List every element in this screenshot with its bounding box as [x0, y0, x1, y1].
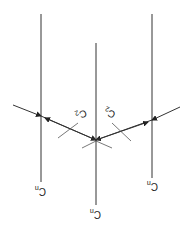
diagonal-right-outer: [152, 107, 180, 120]
center-cross-left: [82, 141, 96, 148]
svg-text:Cn: Cn: [90, 208, 101, 220]
svg-text:Cn: Cn: [147, 180, 158, 192]
svg-text:C2: C2: [74, 107, 89, 122]
label-c2-right: C2: [102, 105, 117, 120]
label-cn-left: Cn: [35, 185, 46, 197]
center-cross-right: [96, 141, 112, 148]
diagonal-right-back: [96, 122, 148, 140]
label-cn-center: Cn: [90, 208, 101, 220]
diagonal-left-outer: [13, 105, 41, 116]
label-c2-left: C2: [74, 107, 89, 122]
c2-axis-right: [112, 123, 131, 141]
label-cn-right: Cn: [147, 180, 158, 192]
svg-text:C2: C2: [102, 105, 117, 120]
symmetry-diagram: Cn Cn Cn C2 C2: [0, 0, 187, 235]
svg-text:Cn: Cn: [35, 185, 46, 197]
